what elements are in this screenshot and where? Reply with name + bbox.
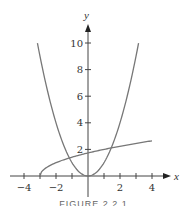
curves bbox=[37, 43, 152, 176]
x-axis-label: x bbox=[173, 170, 179, 182]
x-tick-label: −4 bbox=[17, 182, 32, 193]
y-tick-label: 6 bbox=[77, 91, 83, 102]
y-tick-label: 8 bbox=[77, 64, 83, 75]
y-axis-arrow-icon bbox=[85, 24, 91, 32]
x-tick-label: 2 bbox=[117, 182, 123, 193]
tick-labels: −4−224246810 bbox=[17, 38, 156, 194]
x-tick-label: −2 bbox=[49, 182, 64, 193]
y-axis-label: y bbox=[83, 9, 89, 21]
y-tick-label: 4 bbox=[77, 117, 83, 128]
x-axis-arrow-icon bbox=[163, 173, 171, 179]
function-graph: −4−224246810 x y bbox=[0, 0, 187, 206]
axes bbox=[10, 24, 171, 197]
y-tick-label: 10 bbox=[70, 38, 83, 49]
figure-caption: FIGURE 2.2.1 bbox=[0, 199, 187, 206]
x-tick-label: 4 bbox=[149, 182, 155, 193]
y-tick-label: 2 bbox=[77, 144, 83, 155]
sqrt-curve bbox=[40, 141, 152, 176]
